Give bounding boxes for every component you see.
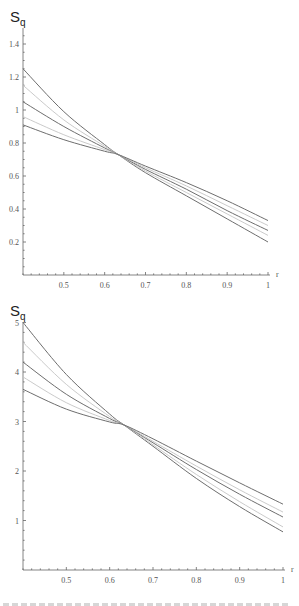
figure-caption-clipped bbox=[0, 598, 299, 606]
y-tick-label: 1 bbox=[15, 106, 19, 115]
x-axis-label: r bbox=[276, 270, 279, 279]
x-tick-label: 0.5 bbox=[61, 576, 71, 585]
axes bbox=[23, 28, 270, 275]
chart-top-plot: Sq0.50.60.70.80.91r0.20.40.60.811.21.4 bbox=[0, 0, 299, 300]
y-tick-label: 0.2 bbox=[9, 238, 19, 247]
x-axis-label: r bbox=[291, 565, 294, 574]
x-tick-label: 0.7 bbox=[141, 281, 151, 290]
y-tick-label: 0.8 bbox=[9, 139, 19, 148]
series-line-curve-1 bbox=[23, 323, 283, 532]
chart-bottom-plot: Sq0.50.60.70.80.91r12345 bbox=[0, 298, 299, 598]
y-tick-label: 5 bbox=[15, 319, 19, 328]
y-axis-label: Sq bbox=[10, 8, 26, 28]
x-tick-label: 0.9 bbox=[235, 576, 245, 585]
x-tick-label: 1 bbox=[281, 576, 285, 585]
chart-top-sq-vs-r: Sq0.50.60.70.80.91r0.20.40.60.811.21.4 bbox=[0, 0, 299, 300]
x-tick-label: 0.6 bbox=[105, 576, 115, 585]
y-tick-label: 1 bbox=[15, 517, 19, 526]
x-tick-label: 0.8 bbox=[181, 281, 191, 290]
x-tick-label: 0.8 bbox=[191, 576, 201, 585]
y-tick-label: 1.2 bbox=[9, 73, 19, 82]
y-tick-label: 0.4 bbox=[9, 205, 19, 214]
y-tick-label: 3 bbox=[15, 418, 19, 427]
x-tick-label: 0.6 bbox=[100, 281, 110, 290]
series-line-curve-3 bbox=[23, 362, 283, 517]
y-tick-label: 0.6 bbox=[9, 172, 19, 181]
x-tick-label: 0.7 bbox=[148, 576, 158, 585]
chart-bottom-sq-vs-r: Sq0.50.60.70.80.91r12345 bbox=[0, 298, 299, 598]
axes bbox=[23, 322, 285, 570]
y-tick-label: 4 bbox=[15, 368, 19, 377]
x-tick-label: 1 bbox=[266, 281, 270, 290]
x-tick-label: 0.9 bbox=[222, 281, 232, 290]
y-tick-label: 1.4 bbox=[9, 40, 19, 49]
x-tick-label: 0.5 bbox=[59, 281, 69, 290]
y-tick-label: 2 bbox=[15, 467, 19, 476]
